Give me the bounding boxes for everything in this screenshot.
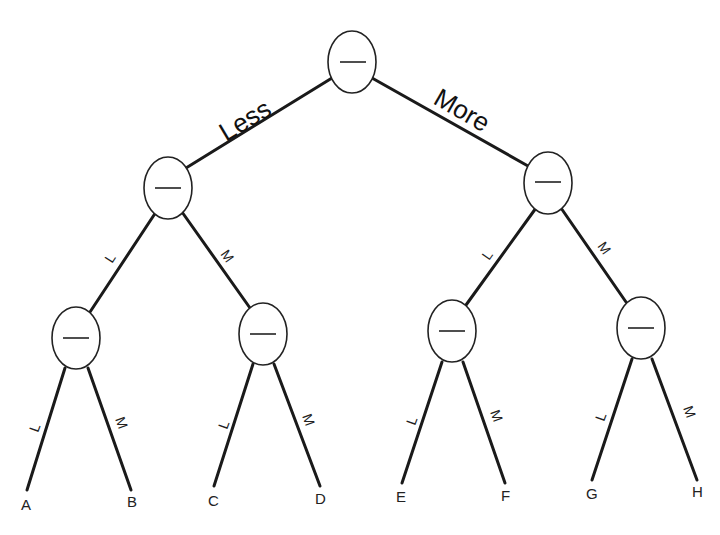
edge-label-m: M: [680, 404, 699, 420]
leaf-label-a: A: [21, 496, 31, 513]
edge-ml-f: [463, 362, 505, 483]
edge-label-l: L: [215, 418, 233, 431]
node-ll: [52, 307, 100, 369]
leaf-label-c: C: [208, 492, 219, 509]
edge-ll-b: [88, 368, 131, 490]
edge-m-m: [561, 208, 626, 302]
node-more: [524, 152, 572, 214]
leaf-label-f: F: [501, 487, 510, 504]
edge-label-l: L: [403, 414, 421, 427]
edge-label-m: M: [595, 239, 615, 258]
edges: [27, 78, 697, 490]
edge-label-l: L: [101, 250, 119, 265]
leaf-label-g: G: [586, 485, 598, 502]
node-less: [144, 157, 192, 219]
edge-l-l: [90, 212, 156, 312]
leaf-label-b: B: [127, 493, 137, 510]
node-mm: [617, 297, 665, 359]
leaf-label-h: H: [692, 483, 703, 500]
edge-l-m: [182, 212, 250, 308]
edge-label-m: M: [112, 415, 131, 431]
edge-lm-d: [274, 364, 320, 486]
edge-label-l: L: [26, 421, 44, 434]
leaf-label-d: D: [315, 490, 326, 507]
edge-label-m: M: [299, 412, 318, 428]
edge-m-l: [466, 208, 536, 305]
edge-label-l: L: [592, 410, 610, 423]
branch-label-less: Less: [214, 93, 277, 147]
edge-label-l: L: [478, 247, 496, 263]
decision-tree-diagram: Less More L M L M L M L M L M L M A B C …: [0, 0, 720, 535]
node-root: [328, 31, 376, 93]
node-ml: [428, 300, 476, 362]
edge-label-m: M: [487, 408, 506, 424]
leaf-label-e: E: [396, 488, 406, 505]
node-lm: [239, 303, 287, 365]
edge-label-m: M: [218, 247, 238, 266]
edge-mm-h: [652, 359, 697, 480]
